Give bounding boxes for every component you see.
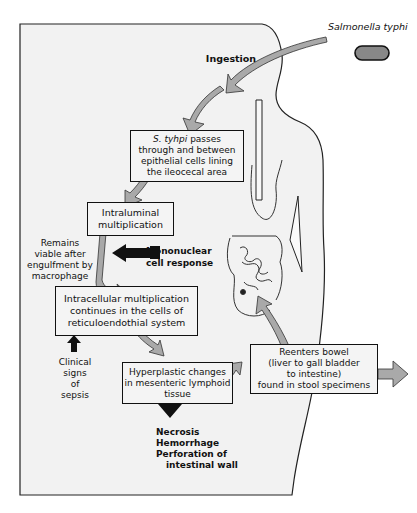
hyperplastic-box: Hyperplastic changes in mesenteric lymph… bbox=[122, 362, 233, 404]
outcomes-label: Necrosis Hemorrhage Perforation of intes… bbox=[156, 427, 246, 471]
passage-italic: S. tyhpi bbox=[153, 134, 187, 144]
intracellular-line-1: Intracellular multiplication bbox=[56, 293, 197, 305]
reenters-line-1: Reenters bowel bbox=[251, 347, 377, 358]
clinical-line-1: Clinical bbox=[50, 357, 100, 368]
bacterium-icon bbox=[355, 46, 389, 60]
outcome-necrosis: Necrosis bbox=[156, 427, 246, 438]
hyperplastic-line-2: in mesenteric lymphoid bbox=[123, 378, 232, 389]
intraluminal-box: Intraluminal multiplication bbox=[87, 202, 174, 236]
reenters-line-4: found in stool specimens bbox=[251, 380, 377, 391]
clinical-line-2: signs bbox=[50, 368, 100, 379]
clinical-signs-label: Clinical signs of sepsis bbox=[50, 357, 100, 401]
intraluminal-line-1: Intraluminal bbox=[88, 207, 173, 219]
organism-label: Salmonella typhi bbox=[328, 21, 417, 33]
arm-outline bbox=[256, 100, 262, 200]
passage-line-3: epithelial cells lining bbox=[131, 156, 243, 167]
ingestion-label: Ingestion bbox=[196, 53, 266, 65]
intracellular-line-3: reticuloendothial system bbox=[56, 317, 197, 329]
mononuclear-line-1: Mononuclear bbox=[146, 246, 226, 258]
reenters-box: Reenters bowel (liver to gall bladder to… bbox=[250, 344, 378, 394]
remains-viable-line-1: Remains bbox=[22, 238, 98, 249]
clinical-line-3: of bbox=[50, 379, 100, 390]
remains-viable-line-4: macrophage bbox=[22, 271, 98, 282]
intraluminal-line-2: multiplication bbox=[88, 219, 173, 231]
intracellular-box: Intracellular multiplication continues i… bbox=[55, 286, 198, 336]
clinical-line-4: sepsis bbox=[50, 390, 100, 401]
outcome-intestinal-wall: intestinal wall bbox=[156, 460, 246, 471]
remains-viable-line-2: viable after bbox=[22, 249, 98, 260]
hyperplastic-line-3: tissue bbox=[123, 389, 232, 400]
passage-line-1: passes bbox=[190, 134, 221, 144]
outcome-hemorrhage: Hemorrhage bbox=[156, 438, 246, 449]
arrow-out-right bbox=[378, 361, 408, 387]
reenters-line-3: to intestine) bbox=[251, 369, 377, 380]
passage-line-2: through and between bbox=[131, 145, 243, 156]
intracellular-line-2: continues in the cells of bbox=[56, 305, 197, 317]
hyperplastic-line-1: Hyperplastic changes bbox=[123, 367, 232, 378]
outcome-perforation: Perforation of bbox=[156, 449, 246, 460]
mononuclear-line-2: cell response bbox=[146, 258, 226, 270]
mononuclear-label: Mononuclear cell response bbox=[146, 246, 226, 269]
remains-viable-line-3: engulfment by bbox=[22, 260, 98, 271]
reenters-line-2: (liver to gall bladder bbox=[251, 358, 377, 369]
remains-viable-label: Remains viable after engulfment by macro… bbox=[22, 238, 98, 282]
passage-box: S. tyhpi passes through and between epit… bbox=[130, 130, 244, 182]
passage-line-4: the ileocecal area bbox=[131, 167, 243, 178]
